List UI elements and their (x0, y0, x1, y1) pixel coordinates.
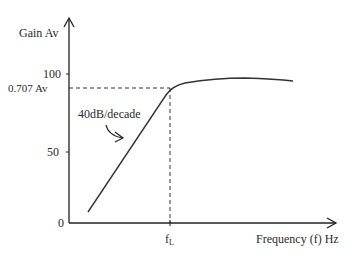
slope-annotation: 40dB/decade (78, 108, 141, 120)
x-axis-label: Frequency (f) Hz (256, 233, 339, 245)
tick-label-100: 100 (43, 68, 61, 80)
fl-label: fL (165, 233, 174, 247)
ref-level-label: 0.707 Av (8, 83, 48, 94)
y-axis-label: Gain Av (19, 27, 58, 39)
gain-curve (88, 78, 293, 212)
tick-label-0: 0 (58, 217, 64, 229)
fl-label-sub: L (169, 238, 174, 247)
tick-label-50: 50 (47, 146, 59, 158)
